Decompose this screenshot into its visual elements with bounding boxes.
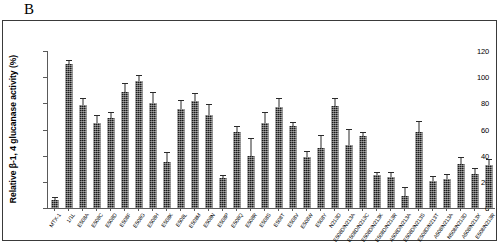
error-bar <box>237 127 238 132</box>
bar <box>444 179 451 208</box>
bar-group <box>286 51 300 208</box>
error-bar <box>265 113 266 123</box>
error-bar-cap <box>374 172 380 173</box>
bar-group <box>328 51 342 208</box>
x-tick <box>264 208 265 211</box>
x-tick <box>432 208 433 211</box>
bar-group <box>216 51 230 208</box>
bar <box>304 157 311 208</box>
error-bar <box>447 175 448 179</box>
x-tick <box>96 208 97 211</box>
error-bar <box>181 101 182 109</box>
error-bar-cap <box>248 138 254 139</box>
bar-group <box>202 51 216 208</box>
x-tick-label: E508M <box>187 212 201 229</box>
error-bar-cap <box>164 152 170 153</box>
error-bar-cap <box>304 151 310 152</box>
error-bar-cap <box>360 132 366 133</box>
x-tick-label: 1/1L <box>65 212 76 224</box>
bar-group <box>314 51 328 208</box>
x-tick <box>124 208 125 211</box>
x-tick-label: E508K <box>160 212 174 228</box>
x-tick <box>278 208 279 211</box>
error-bar <box>209 105 210 115</box>
bar-group <box>468 51 482 208</box>
error-bar-cap <box>234 126 240 127</box>
bar-group <box>160 51 174 208</box>
error-bar-cap <box>192 93 198 94</box>
x-tick <box>306 208 307 211</box>
bar-group <box>76 51 90 208</box>
bar-group <box>426 51 440 208</box>
error-bar <box>139 76 140 81</box>
error-bar <box>69 61 70 64</box>
error-bar <box>167 153 168 162</box>
bar-series <box>48 51 496 208</box>
error-bar-cap <box>402 187 408 188</box>
bar <box>262 123 269 208</box>
error-bar-cap <box>444 174 450 175</box>
bar-group <box>174 51 188 208</box>
bar-group <box>272 51 286 208</box>
figure-panel-b: B Relative β-1, 4 glucanase activity (%)… <box>0 0 502 249</box>
error-bar <box>279 99 280 107</box>
error-bar <box>433 177 434 181</box>
x-tick <box>82 208 83 211</box>
error-bar-cap <box>430 176 436 177</box>
error-bar <box>125 84 126 92</box>
error-bar-cap <box>486 159 492 160</box>
bar <box>374 175 381 208</box>
x-tick <box>404 208 405 211</box>
error-bar <box>307 152 308 157</box>
panel-label: B <box>24 2 34 17</box>
y-axis-title: Relative β-1, 4 glucanase activity (%) <box>8 55 18 203</box>
bar <box>276 107 283 208</box>
x-tick <box>292 208 293 211</box>
bar <box>430 181 437 208</box>
error-bar <box>83 99 84 104</box>
bar <box>192 101 199 208</box>
x-tick <box>320 208 321 211</box>
bar <box>388 177 395 208</box>
error-bar <box>55 198 56 200</box>
x-tick <box>446 208 447 211</box>
x-tick <box>208 208 209 211</box>
error-bar-cap <box>458 157 464 158</box>
bar <box>416 132 423 208</box>
x-tick-label: MTX-1 <box>48 212 62 228</box>
error-bar-cap <box>388 172 394 173</box>
bar <box>108 118 115 208</box>
bar <box>178 109 185 208</box>
error-bar <box>335 99 336 106</box>
error-bar-cap <box>416 121 422 122</box>
bar-group <box>482 51 496 208</box>
error-bar <box>223 176 224 178</box>
error-bar <box>321 136 322 148</box>
bar <box>136 81 143 208</box>
x-tick <box>194 208 195 211</box>
x-tick <box>474 208 475 211</box>
bar-group <box>48 51 62 208</box>
x-tick-label: E508C <box>90 212 104 229</box>
bar-group <box>146 51 160 208</box>
x-tick-label: E508N <box>202 212 216 229</box>
x-tick-label: E508Q <box>230 212 244 229</box>
error-bar-cap <box>332 98 338 99</box>
x-tick-label: E508W <box>299 212 314 230</box>
bar-group <box>258 51 272 208</box>
error-bar-cap <box>66 60 72 61</box>
x-tick <box>236 208 237 211</box>
x-tick-label: E508G <box>132 212 146 229</box>
bar-group <box>398 51 412 208</box>
x-tick <box>376 208 377 211</box>
error-bar-cap <box>206 104 212 105</box>
error-bar <box>475 169 476 174</box>
x-tick-label: E508T <box>272 212 286 228</box>
x-tick-label: E508P <box>216 212 230 228</box>
x-tick-label: E508S <box>258 212 272 228</box>
x-tick-label: E508F <box>118 212 132 228</box>
bar <box>290 126 297 208</box>
bar <box>206 115 213 208</box>
x-tick <box>418 208 419 211</box>
bar-group <box>230 51 244 208</box>
